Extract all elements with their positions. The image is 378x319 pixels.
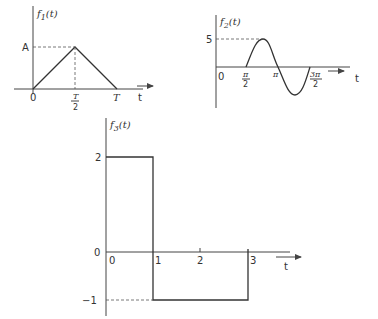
f1-end-T: T: [113, 92, 121, 103]
f2-pi-half-den: 2: [243, 80, 248, 89]
f1-ymark-A: A: [22, 42, 29, 53]
f1-half-num: T: [73, 92, 79, 101]
f1-origin: 0: [30, 92, 36, 103]
plot-f3: f3(t) 2 0 −1 0 1 2 3 t: [82, 118, 301, 316]
figure-canvas: f1(t) A 0 T 2 T t f2(t) 5 0 π 2 π 3π 2 t…: [0, 0, 378, 319]
f3-xtick-0: 0: [109, 255, 115, 266]
f3-xlabel: t: [284, 261, 288, 272]
f3-ytick-2: 2: [95, 152, 101, 163]
f2-3pi-half-num: 3π: [310, 70, 321, 79]
f1-half-den: 2: [73, 103, 78, 112]
f1-ylabel: f1(t): [36, 8, 58, 22]
plot-f1: f1(t) A 0 T 2 T t: [14, 6, 153, 112]
f3-ytick-0: 0: [94, 247, 100, 258]
plot-f2: f2(t) 5 0 π 2 π 3π 2 t: [206, 15, 359, 108]
f3-xtick-2: 2: [197, 255, 203, 266]
f2-3pi-half-den: 2: [313, 80, 318, 89]
f2-origin: 0: [218, 71, 224, 82]
f3-xtick-3: 3: [250, 255, 256, 266]
f3-ytick-neg1: −1: [82, 295, 97, 306]
f2-xlabel: t: [355, 73, 359, 84]
f2-ylabel: f2(t): [219, 16, 241, 30]
f3-ylabel: f3(t): [109, 119, 131, 133]
f3-xtick-1: 1: [155, 255, 161, 266]
f2-pi: π: [272, 70, 279, 79]
f2-pi-half-num: π: [242, 70, 249, 79]
f1-xlabel: t: [138, 92, 142, 103]
f3-curve: [106, 157, 248, 300]
f2-ymark-5: 5: [206, 34, 212, 45]
